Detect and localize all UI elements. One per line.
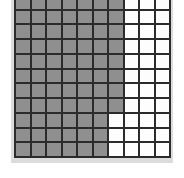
grid-cell <box>63 70 77 83</box>
grid-cell <box>47 55 61 68</box>
grid-cell <box>32 0 46 9</box>
grid-cell <box>140 0 154 9</box>
grid-clip <box>14 0 171 158</box>
grid-cell <box>16 143 30 156</box>
grid-cell <box>78 70 92 83</box>
grid-cell <box>32 11 46 24</box>
grid-cell <box>16 129 30 142</box>
grid-cell <box>78 40 92 53</box>
cell-grid <box>14 0 171 158</box>
grid-cell <box>156 84 170 97</box>
grid-cell <box>109 84 123 97</box>
grid-cell <box>156 40 170 53</box>
grid-cell <box>16 25 30 38</box>
grid-cell <box>125 114 139 127</box>
grid-cell <box>78 143 92 156</box>
grid-cell <box>63 129 77 142</box>
grid-cell <box>63 25 77 38</box>
grid-cell <box>140 25 154 38</box>
grid-cell <box>94 25 108 38</box>
grid-cell <box>94 40 108 53</box>
grid-cell <box>63 0 77 9</box>
grid-cell <box>140 70 154 83</box>
grid-cell <box>47 84 61 97</box>
grid-cell <box>47 70 61 83</box>
grid-cell <box>125 40 139 53</box>
grid-cell <box>78 114 92 127</box>
grid-cell <box>47 114 61 127</box>
grid-cell <box>94 129 108 142</box>
grid-cell <box>94 143 108 156</box>
grid-cell <box>94 99 108 112</box>
grid-cell <box>125 25 139 38</box>
grid-cell <box>140 114 154 127</box>
grid-cell <box>109 0 123 9</box>
grid-cell <box>78 55 92 68</box>
grid-cell <box>140 143 154 156</box>
grid-cell <box>94 11 108 24</box>
grid-cell <box>125 70 139 83</box>
grid-cell <box>156 55 170 68</box>
grid-cell <box>78 11 92 24</box>
grid-cell <box>125 11 139 24</box>
grid-cell <box>109 114 123 127</box>
grid-cell <box>140 84 154 97</box>
grid-cell <box>16 11 30 24</box>
grid-cell <box>125 99 139 112</box>
figure-canvas <box>0 0 184 178</box>
grid-cell <box>94 114 108 127</box>
grid-cell <box>78 25 92 38</box>
grid-cell <box>94 84 108 97</box>
grid-cell <box>63 55 77 68</box>
grid-cell <box>16 70 30 83</box>
grid-cell <box>32 40 46 53</box>
grid-cell <box>16 99 30 112</box>
grid-cell <box>156 0 170 9</box>
grid-cell <box>156 99 170 112</box>
grid-cell <box>32 114 46 127</box>
grid-cell <box>16 84 30 97</box>
grid-cell <box>32 99 46 112</box>
grid-cell <box>78 84 92 97</box>
grid-cell <box>63 99 77 112</box>
grid-cell <box>63 84 77 97</box>
grid-cell <box>156 70 170 83</box>
grid-cell <box>78 99 92 112</box>
grid-cell <box>63 114 77 127</box>
grid-cell <box>32 84 46 97</box>
grid-cell <box>109 55 123 68</box>
grid-cell <box>47 25 61 38</box>
grid-cell <box>125 0 139 9</box>
grid-cell <box>47 0 61 9</box>
grid-cell <box>156 114 170 127</box>
grid-cell <box>47 99 61 112</box>
grid-cell <box>32 70 46 83</box>
grid-cell <box>156 129 170 142</box>
grid-cell <box>16 55 30 68</box>
grid-cell <box>109 11 123 24</box>
grid-cell <box>109 129 123 142</box>
grid-cell <box>78 0 92 9</box>
grid-cell <box>78 129 92 142</box>
grid-cell <box>140 40 154 53</box>
grid-cell <box>156 11 170 24</box>
grid-cell <box>109 143 123 156</box>
grid-cell <box>109 25 123 38</box>
grid-cell <box>156 25 170 38</box>
grid-cell <box>16 0 30 9</box>
grid-cell <box>16 114 30 127</box>
grid-cell <box>94 55 108 68</box>
grid-cell <box>125 143 139 156</box>
grid-cell <box>63 143 77 156</box>
grid-cell <box>125 55 139 68</box>
grid-cell <box>156 143 170 156</box>
grid-cell <box>47 143 61 156</box>
grid-cell <box>140 99 154 112</box>
grid-cell <box>109 70 123 83</box>
grid-cell <box>32 143 46 156</box>
grid-cell <box>140 55 154 68</box>
grid-cell <box>63 11 77 24</box>
grid-cell <box>109 99 123 112</box>
grid-cell <box>125 84 139 97</box>
grid-cell <box>125 129 139 142</box>
